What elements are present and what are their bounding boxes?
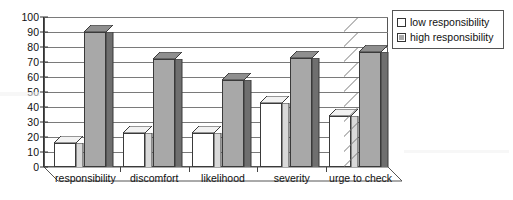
side-wall-gridline [344,137,358,152]
bar-responsibility-low [54,143,76,167]
side-wall-gridline [344,77,358,92]
bar-front-face [153,59,175,167]
legend: low responsibility high responsibility [392,10,504,49]
legend-label-high: high responsibility [410,32,493,43]
x-axis-label-urge-to-check: urge to check [326,172,395,184]
bar-top-face [54,136,76,143]
y-axis-tick-mark [40,137,48,138]
y-axis-tick-mark [40,167,48,168]
x-axis-label-severity: severity [257,172,326,184]
x-axis-label-likelihood: likelihood [189,172,258,184]
legend-label-low: low responsibility [410,17,489,28]
side-wall-gridline [344,17,358,32]
bar-severity-low [260,103,282,168]
y-axis-tick-label: 0 [5,162,44,173]
x-axis-tick-mark [120,167,121,172]
bar-discomfort-high [153,59,175,167]
y-axis-tick-label: 100 [5,12,44,23]
scan-artifact [0,92,40,96]
bar-top-face [84,25,106,32]
bar-severity-high [290,58,312,168]
y-axis: 1009080706050403020100 [43,17,44,167]
bar-urge-to-check-high [359,52,381,168]
bar-top-face [123,126,145,133]
bar-chart: 1009080706050403020100 responsibilitydis… [0,0,513,200]
y-axis-tick-label: 90 [5,27,44,38]
bar-side-face [282,103,289,175]
y-axis-tick-label: 80 [5,42,44,53]
x-axis-label-discomfort: discomfort [120,172,189,184]
y-axis-tick-mark [40,92,48,93]
bar-front-face [260,103,282,168]
y-axis-tick-label: 30 [5,117,44,128]
y-axis-tick-mark [40,122,48,123]
bar-front-face [123,133,145,168]
bar-top-face [222,73,244,80]
bar-front-face [222,80,244,167]
x-axis-tick-mark [257,167,258,172]
y-axis-tick-label: 10 [5,147,44,158]
bar-front-face [290,58,312,168]
bar-top-face [153,52,175,59]
y-axis-tick-label: 70 [5,57,44,68]
scan-artifact [404,150,509,153]
side-wall-gridline [344,152,358,167]
plot-side-wall [344,17,358,167]
legend-swatch-high-icon [397,33,406,42]
bar-responsibility-high [84,32,106,167]
y-axis-tick-label: 40 [5,102,44,113]
bar-top-face [359,45,381,52]
side-wall-gridline [344,32,358,47]
bar-top-face [260,96,282,103]
bar-side-face [381,52,388,175]
x-axis-label-responsibility: responsibility [51,172,120,184]
bar-group [44,17,113,167]
bar-top-face [192,126,214,133]
bar-top-face [290,51,312,58]
side-wall-gridline [344,107,358,122]
bar-front-face [359,52,381,168]
y-axis-tick-mark [40,107,48,108]
bar-front-face [84,32,106,167]
legend-item-low: low responsibility [397,15,499,29]
side-wall-gridline [344,47,358,62]
bar-likelihood-high [222,80,244,167]
bar-series-container [44,17,388,167]
legend-item-high: high responsibility [397,30,499,44]
bar-likelihood-low [192,133,214,168]
side-wall-gridline [344,92,358,107]
y-axis-tick-mark [40,47,48,48]
bar-group [250,17,319,167]
legend-swatch-low-icon [397,18,406,27]
y-axis-tick-label: 60 [5,72,44,83]
x-axis-tick-mark [326,167,327,172]
y-axis-tick-mark [40,77,48,78]
y-axis-tick-mark [40,62,48,63]
x-axis-labels: responsibilitydiscomfortlikelihoodseveri… [44,172,402,192]
y-axis-tick-mark [40,152,48,153]
y-axis-tick-mark [40,32,48,33]
x-axis-tick-mark [189,167,190,172]
bar-discomfort-low [123,133,145,168]
y-axis-tick-mark [40,17,48,18]
y-axis-tick-label: 20 [5,132,44,143]
side-wall-gridline [344,122,358,137]
bar-front-face [192,133,214,168]
bar-group [113,17,182,167]
plot-area [44,17,388,167]
side-wall-gridline [344,62,358,77]
bar-front-face [54,143,76,167]
bar-group [182,17,251,167]
